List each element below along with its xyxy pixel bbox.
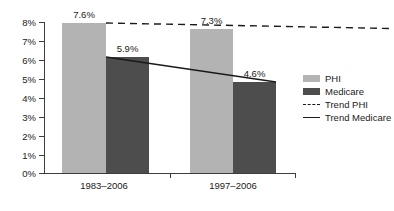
y-axis-tick-1: 1%: [39, 155, 44, 156]
x-axis-category-label-1: 1983–2006: [56, 181, 152, 191]
y-axis-tick-label-4: 4%: [22, 94, 36, 104]
y-axis-tick-2: 2%: [39, 136, 44, 137]
y-axis-line: [44, 22, 45, 173]
legend-swatch-phi-icon: [303, 73, 320, 84]
y-axis-tick-label-1: 1%: [22, 151, 36, 161]
y-axis-tick-label-6: 6%: [22, 56, 36, 66]
y-axis-tick-label-2: 2%: [22, 132, 36, 142]
trend-line-phi: [106, 23, 390, 29]
data-label-phi-1997-2006: 7.3%: [190, 16, 233, 26]
x-axis-tick-end: [295, 173, 296, 178]
y-axis-tick-7: 7%: [39, 41, 44, 42]
y-axis-tick-5: 5%: [39, 79, 44, 80]
legend-swatch-medicare-icon: [303, 86, 320, 97]
y-axis-tick-6: 6%: [39, 60, 44, 61]
legend-item-trend-medicare[interactable]: Trend Medicare: [303, 112, 391, 123]
bar-medicare-1997-2006[interactable]: [233, 82, 276, 173]
legend-dashed-line-icon: [303, 99, 320, 110]
data-label-medicare-1983-2006: 5.9%: [106, 44, 149, 54]
x-axis-category-label-2: 1997–2006: [185, 181, 281, 191]
legend-label-phi: PHI: [325, 74, 341, 84]
bar-phi-1983-2006[interactable]: [62, 23, 106, 173]
bar-chart: 8% 7% 6% 5% 4% 3% 2% 1% 0% 7.6% 5.9% 7.3…: [0, 0, 394, 211]
y-axis-tick-3: 3%: [39, 117, 44, 118]
y-axis-tick-label-8: 8%: [22, 18, 36, 28]
y-axis-tick-label-3: 3%: [22, 113, 36, 123]
legend-item-medicare[interactable]: Medicare: [303, 86, 391, 97]
x-axis-tick-mid: [170, 173, 171, 178]
legend-item-phi[interactable]: PHI: [303, 73, 391, 84]
y-axis-tick-label-5: 5%: [22, 75, 36, 85]
y-axis-tick-0: 0%: [39, 173, 44, 174]
legend-label-medicare: Medicare: [325, 87, 364, 97]
legend-label-trend-phi: Trend PHI: [325, 100, 368, 110]
legend-label-trend-medicare: Trend Medicare: [325, 113, 391, 123]
legend-item-trend-phi[interactable]: Trend PHI: [303, 99, 391, 110]
bar-medicare-1983-2006[interactable]: [106, 57, 149, 173]
y-axis-tick-8: 8%: [39, 22, 44, 23]
data-label-medicare-1997-2006: 4.6%: [233, 69, 276, 79]
legend-solid-line-icon: [303, 112, 320, 123]
y-axis-tick-4: 4%: [39, 98, 44, 99]
chart-legend: PHI Medicare Trend PHI Trend Medicare: [303, 73, 391, 123]
bar-phi-1997-2006[interactable]: [190, 29, 233, 173]
y-axis-tick-label-0: 0%: [22, 169, 36, 179]
data-label-phi-1983-2006: 7.6%: [62, 10, 106, 20]
y-axis-tick-label-7: 7%: [22, 37, 36, 47]
